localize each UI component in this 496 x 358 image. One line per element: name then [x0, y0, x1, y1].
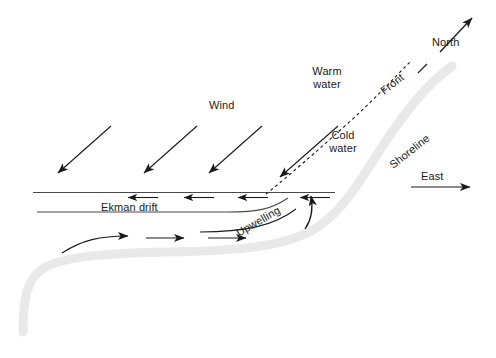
cold-water-label-line1: Cold: [322, 129, 364, 142]
cold-water-label-line2: water: [322, 142, 364, 155]
wind-arrow-2: [144, 126, 197, 173]
ekman-drift-label: Ekman drift: [101, 201, 158, 214]
shoreline-band: [23, 66, 452, 332]
warm-water-label-line1: Warm: [305, 65, 349, 78]
east-label: East: [421, 170, 443, 183]
wind-arrow-3: [209, 126, 262, 173]
north-arrow-tail-dash: [418, 64, 427, 73]
wind-arrow-1: [58, 126, 111, 173]
ekman-layer-base-line: [37, 198, 288, 212]
upwelling-arrow: [305, 196, 312, 229]
wind-label: Wind: [209, 99, 234, 112]
upwelling-diagram: Wind Ekman drift Upwelling Warm water Co…: [0, 0, 496, 358]
warm-water-label-line2: water: [305, 78, 349, 91]
north-label: North: [432, 36, 459, 49]
wind-arrow-group: [58, 126, 338, 177]
